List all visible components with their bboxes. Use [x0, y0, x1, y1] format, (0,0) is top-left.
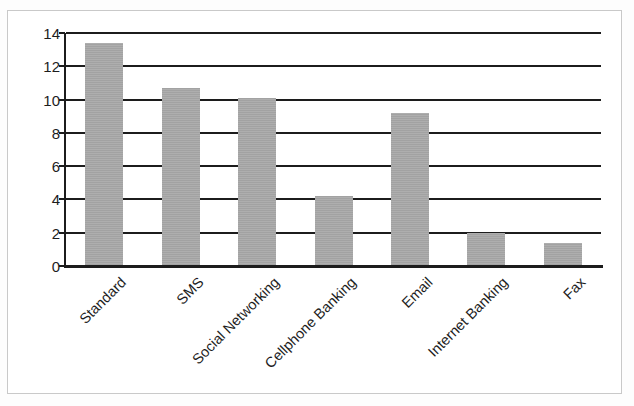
y-axis-line [64, 33, 66, 268]
gridline-10 [66, 99, 601, 101]
gridline-12 [66, 65, 601, 67]
gridline-6 [66, 165, 601, 167]
plot-area [66, 33, 601, 266]
bar-standard [85, 43, 123, 266]
y-axis-label-12: 12 [43, 59, 60, 74]
gridline-14 [66, 32, 601, 34]
y-axis-label-10: 10 [43, 92, 60, 107]
chart-figure: 02468101214 StandardSMSSocial Networking… [0, 0, 634, 406]
gridline-8 [66, 132, 601, 134]
bar-email [391, 113, 429, 266]
y-axis-label-14: 14 [43, 26, 60, 41]
x-axis-tick-labels: StandardSMSSocial NetworkingCellphone Ba… [66, 268, 601, 388]
x-axis-label-standard: Standard [76, 274, 129, 327]
x-axis-label-email: Email [399, 274, 436, 311]
x-axis-label-fax: Fax [560, 274, 588, 302]
bar-internet-banking [467, 233, 505, 266]
bar-sms [162, 88, 200, 266]
x-axis-label-internet-banking: Internet Banking [425, 274, 511, 360]
y-axis-tick-labels: 02468101214 [28, 33, 60, 266]
bar-cellphone-banking [315, 196, 353, 266]
bar-social-networking [238, 98, 276, 266]
bar-fax [544, 243, 582, 266]
x-axis-label-sms: SMS [173, 274, 207, 308]
